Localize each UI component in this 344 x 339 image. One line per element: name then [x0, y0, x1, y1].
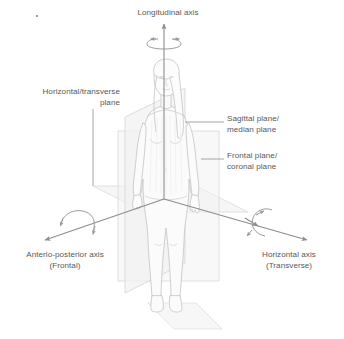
label-transverse-plane: Horizontal/transverse plane — [8, 86, 120, 108]
label-horizontal-axis: Horizontal axis (Transverse) — [236, 249, 342, 271]
label-longitudinal-axis: Longitudinal axis — [113, 7, 223, 18]
label-anterio-posterior-axis: Anterio-posterior axis (Frontal) — [2, 249, 128, 271]
anterio-posterior-axis-rotation-icon — [61, 211, 96, 235]
horizontal-axis-rotation-icon — [247, 209, 272, 236]
label-frontal-plane: Frontal plane/ coronal plane — [227, 150, 339, 172]
anatomical-planes-figure: Longitudinal axis Horizontal/transverse … — [0, 0, 344, 339]
scan-artifact-speck — [36, 15, 38, 17]
label-sagittal-plane: Sagittal plane/ median plane — [227, 113, 339, 135]
